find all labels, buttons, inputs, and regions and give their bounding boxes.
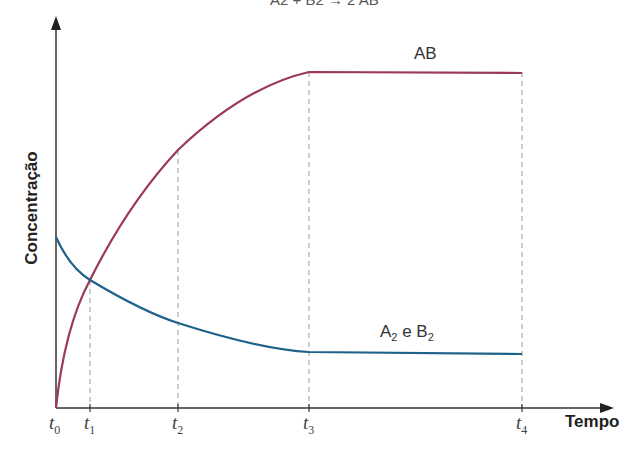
y-axis-label: Concentração [22, 128, 42, 288]
tick-t4: t4 [516, 412, 527, 438]
tick-t3: t3 [303, 412, 314, 438]
x-axis-label: Tempo [565, 412, 619, 432]
tick-t2: t2 [172, 412, 183, 438]
series-a2b2-label: A2 e B2 [380, 322, 434, 343]
guide-lines [90, 72, 522, 408]
chart-canvas [0, 0, 626, 450]
chart-title: A2 + B2 → 2 AB [270, 0, 379, 8]
y-axis-arrow-icon [51, 16, 61, 30]
tick-t0: t0 [49, 412, 60, 438]
series-ab-line [56, 72, 522, 408]
series-ab-label: AB [414, 44, 437, 64]
tick-t1: t1 [84, 412, 95, 438]
series-a2b2-line [56, 237, 522, 354]
